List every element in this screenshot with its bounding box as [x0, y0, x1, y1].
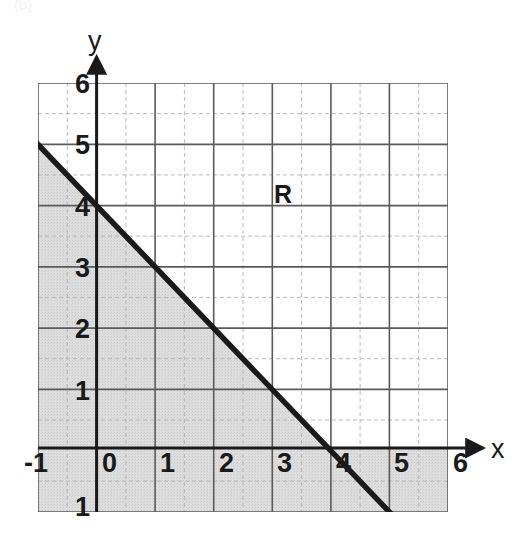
- x-axis-label: x: [491, 434, 505, 464]
- x-tick-label: 2: [219, 448, 234, 478]
- y-tick-label: 3: [75, 253, 90, 283]
- linear-inequality-graph: -1 0 1 2 3 4 5 6 6 5 4 3 2 1 1 x y R: [0, 0, 514, 540]
- x-tick-label: 4: [336, 448, 351, 478]
- x-tick-label: 6: [453, 448, 468, 478]
- y-tick-label-negative-one: 1: [75, 492, 90, 522]
- y-tick-label: 2: [75, 314, 90, 344]
- y-axis-label: y: [88, 26, 102, 56]
- y-tick-label: 1: [75, 376, 90, 406]
- graph-figure: (b): [0, 0, 514, 540]
- y-tick-label: 5: [75, 130, 90, 160]
- region-label-group: R: [274, 180, 292, 208]
- y-tick-label: 6: [75, 69, 90, 99]
- x-tick-label: 3: [277, 448, 292, 478]
- region-label-r: R: [274, 180, 292, 208]
- x-tick-label: 1: [160, 448, 175, 478]
- x-tick-label: -1: [24, 448, 48, 478]
- x-tick-label: 5: [394, 448, 409, 478]
- x-tick-label: 0: [102, 448, 117, 478]
- y-tick-label: 4: [75, 192, 90, 222]
